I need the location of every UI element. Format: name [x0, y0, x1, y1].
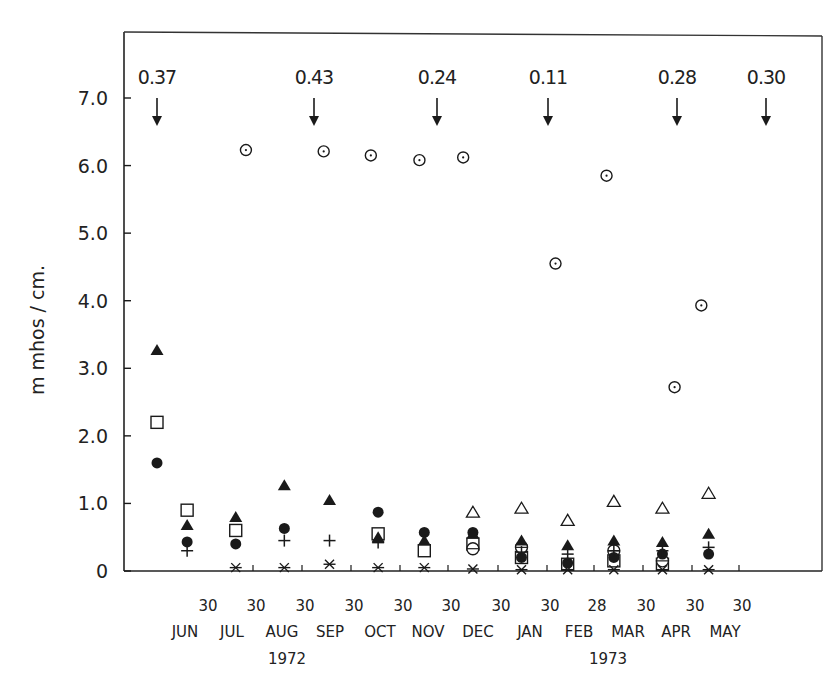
y-tick-label: 5.0: [78, 222, 108, 244]
asterisk-marker-icon: [324, 560, 336, 569]
data-points: [151, 145, 716, 575]
x-month-label: JUN: [171, 623, 199, 641]
asterisk-marker-icon: [467, 564, 479, 573]
x-month-label: OCT: [364, 623, 396, 641]
circle-dot-marker-icon: [240, 145, 251, 156]
x-day-label: 30: [732, 597, 751, 615]
square-open-marker-icon: [418, 545, 430, 557]
arrow-head-icon: [761, 116, 771, 126]
x-month-label: NOV: [411, 623, 445, 641]
triangle-filled-marker-icon: [229, 511, 242, 522]
arrow-head-icon: [543, 116, 553, 126]
arrow-head-icon: [152, 116, 162, 126]
annotation-value: 0.30: [747, 66, 785, 88]
x-day-label: 30: [441, 597, 460, 615]
asterisk-marker-icon: [703, 565, 715, 574]
triangle-filled-marker-icon: [656, 536, 669, 547]
x-year-label: 1973: [589, 650, 627, 668]
y-tick-label: 2.0: [78, 425, 108, 447]
annotation-arrow: 0.11: [529, 66, 567, 126]
triangle-open-marker-icon: [561, 514, 574, 525]
triangle-filled-marker-icon: [702, 528, 715, 539]
x-day-label: 30: [393, 597, 412, 615]
annotation-arrow: 0.28: [658, 66, 696, 126]
x-month-label: JUL: [219, 623, 244, 641]
circle-dot-marker-icon: [318, 146, 329, 157]
y-tick-label: 7.0: [78, 87, 108, 109]
annotation-arrow: 0.43: [295, 66, 333, 126]
x-day-label: 30: [685, 597, 704, 615]
circle-filled-marker-icon: [230, 538, 241, 549]
x-month-label: MAR: [611, 623, 645, 641]
x-month-label: AUG: [266, 623, 299, 641]
circle-dot-marker-icon: [696, 300, 707, 311]
triangle-open-marker-icon: [656, 502, 669, 513]
y-axis: 01.02.03.04.05.06.07.0: [78, 87, 131, 582]
y-tick-label: 0: [96, 560, 108, 582]
triangle-filled-marker-icon: [278, 479, 291, 490]
x-month-label: FEB: [565, 623, 593, 641]
plus-marker-icon: [278, 535, 290, 547]
x-month-label: APR: [661, 623, 691, 641]
x-day-label: 30: [344, 597, 363, 615]
circle-dot-marker-icon: [365, 150, 376, 161]
square-open-marker-icon: [230, 524, 242, 536]
x-day-label: 30: [295, 597, 314, 615]
square-open-marker-icon: [151, 416, 163, 428]
y-tick-label: 4.0: [78, 290, 108, 312]
asterisk-marker-icon: [516, 565, 528, 574]
circle-open-marker-icon: [467, 543, 479, 555]
annotation-value: 0.28: [658, 66, 696, 88]
circle-dot-marker-icon: [601, 170, 612, 181]
y-tick-label: 6.0: [78, 155, 108, 177]
annotation-value: 0.43: [295, 66, 333, 88]
x-month-label: SEP: [316, 623, 344, 641]
triangle-open-marker-icon: [466, 506, 479, 517]
circle-dot-marker-icon: [458, 152, 469, 163]
x-day-label: 30: [540, 597, 559, 615]
x-day-label: 30: [491, 597, 510, 615]
annotation-arrow: 0.37: [138, 66, 176, 126]
circle-filled-marker-icon: [373, 507, 384, 518]
x-day-label: 30: [198, 597, 217, 615]
annotation-value: 0.11: [529, 66, 567, 88]
x-day-label: 30: [636, 597, 655, 615]
triangle-filled-marker-icon: [151, 344, 164, 355]
x-day-label: 30: [246, 597, 265, 615]
circle-dot-marker-icon: [669, 382, 680, 393]
plot-frame: [124, 32, 822, 571]
annotation-arrow: 0.30: [747, 66, 785, 126]
conductivity-chart: 01.02.03.04.05.06.07.0 30303030303030302…: [0, 0, 832, 696]
x-year-label: 1972: [268, 650, 306, 668]
x-month-label: DEC: [462, 623, 494, 641]
square-open-marker-icon: [181, 504, 193, 516]
triangle-filled-marker-icon: [515, 535, 528, 546]
arrow-head-icon: [672, 116, 682, 126]
plus-marker-icon: [181, 545, 193, 557]
triangle-filled-marker-icon: [418, 535, 431, 546]
triangle-filled-marker-icon: [561, 539, 574, 550]
triangle-open-marker-icon: [607, 495, 620, 506]
y-tick-label: 1.0: [78, 492, 108, 514]
triangle-filled-marker-icon: [323, 494, 336, 505]
triangle-filled-marker-icon: [181, 519, 194, 530]
circle-dot-marker-icon: [550, 258, 561, 269]
y-tick-label: 3.0: [78, 357, 108, 379]
x-month-label: MAY: [709, 623, 741, 641]
triangle-filled-marker-icon: [607, 535, 620, 546]
triangle-open-marker-icon: [515, 502, 528, 513]
plus-marker-icon: [324, 535, 336, 547]
circle-filled-marker-icon: [152, 457, 163, 468]
x-axis: 303030303030303028303030JUNJULAUGSEPOCTN…: [171, 565, 752, 668]
annotation-value: 0.24: [418, 66, 457, 88]
annotation-value: 0.37: [138, 66, 176, 88]
triangle-open-marker-icon: [702, 487, 715, 498]
circle-filled-marker-icon: [279, 523, 290, 534]
arrow-head-icon: [432, 116, 442, 126]
x-month-label: JAN: [516, 623, 543, 641]
annotation-arrow: 0.24: [418, 66, 457, 126]
circle-dot-marker-icon: [414, 155, 425, 166]
annotation-arrows: 0.370.430.240.110.280.30: [138, 66, 785, 126]
arrow-head-icon: [309, 116, 319, 126]
x-day-label: 28: [587, 597, 606, 615]
